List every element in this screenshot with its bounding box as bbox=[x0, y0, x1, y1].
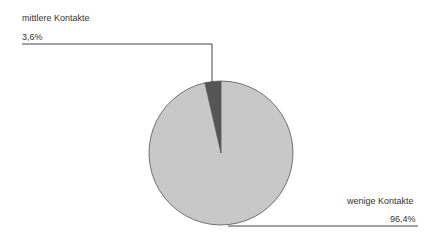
leader-line-mittlere bbox=[22, 44, 212, 82]
pie-slices bbox=[149, 81, 293, 225]
label-wenige-value: 96,4% bbox=[390, 214, 416, 224]
pie-slice bbox=[149, 81, 293, 225]
label-mittlere-value: 3,6% bbox=[22, 32, 43, 42]
label-wenige-name: wenige Kontakte bbox=[347, 196, 414, 206]
label-mittlere-name: mittlere Kontakte bbox=[22, 13, 90, 23]
